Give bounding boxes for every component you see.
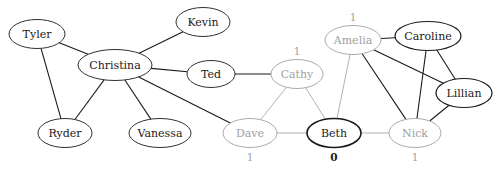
graph-edge-cathy-beth xyxy=(306,88,326,120)
graph-edge-cathy-dave xyxy=(261,87,287,119)
graph-edge-christina-ryder xyxy=(75,80,104,120)
graph-node-cathy[interactable]: Cathy xyxy=(271,60,323,89)
graph-node-christina[interactable]: Christina xyxy=(78,50,152,81)
graph-node-ryder[interactable]: Ryder xyxy=(38,119,92,148)
graph-edge-tyler-christina xyxy=(59,43,88,55)
graph-edge-nick-lillian xyxy=(430,105,449,121)
edges-layer xyxy=(41,32,455,133)
graph-edge-amelia-caroline xyxy=(381,38,395,39)
node-value-beth: 0 xyxy=(330,151,337,163)
graph-edge-amelia-lillian xyxy=(374,50,444,83)
node-label-christina: Christina xyxy=(89,59,141,72)
node-value-amelia: 1 xyxy=(350,11,357,23)
graph-edge-christina-vanessa xyxy=(125,80,151,119)
graph-node-dave[interactable]: Dave xyxy=(223,119,277,148)
node-value-cathy: 1 xyxy=(294,45,301,57)
node-label-cathy: Cathy xyxy=(281,68,314,81)
node-label-kevin: Kevin xyxy=(187,16,218,29)
graph-edge-caroline-nick xyxy=(417,50,426,118)
social-network-graph-figure: TylerKevinChristinaTedRyderVanessaCathyA… xyxy=(0,0,504,169)
node-label-beth: Beth xyxy=(321,127,347,140)
node-label-caroline: Caroline xyxy=(404,30,452,43)
graph-edge-christina-kevin xyxy=(139,32,183,53)
graph-node-vanessa[interactable]: Vanessa xyxy=(129,119,191,148)
graph-node-beth[interactable]: Beth xyxy=(307,119,361,148)
graph-edge-tyler-ryder xyxy=(41,48,61,118)
graph-node-lillian[interactable]: Lillian xyxy=(436,79,492,108)
node-label-ted: Ted xyxy=(201,68,221,81)
graph-edge-amelia-nick xyxy=(362,54,406,120)
node-value-dave: 1 xyxy=(247,151,254,163)
node-label-dave: Dave xyxy=(236,127,264,140)
graph-node-tyler[interactable]: Tyler xyxy=(9,20,65,49)
nodes-layer: TylerKevinChristinaTedRyderVanessaCathyA… xyxy=(9,8,492,148)
graph-node-amelia[interactable]: Amelia xyxy=(325,26,381,55)
node-label-amelia: Amelia xyxy=(333,34,373,47)
graph-node-caroline[interactable]: Caroline xyxy=(395,22,461,51)
node-label-tyler: Tyler xyxy=(23,28,53,41)
graph-node-ted[interactable]: Ted xyxy=(187,61,235,88)
node-label-vanessa: Vanessa xyxy=(137,127,183,140)
graph-edge-amelia-beth xyxy=(337,54,350,118)
graph-node-kevin[interactable]: Kevin xyxy=(176,8,230,37)
graph-edge-christina-ted xyxy=(151,68,187,71)
graph-edge-caroline-lillian xyxy=(437,50,455,79)
graph-node-nick[interactable]: Nick xyxy=(389,119,441,148)
node-label-ryder: Ryder xyxy=(48,127,82,140)
node-label-nick: Nick xyxy=(402,127,428,140)
node-value-nick: 1 xyxy=(412,151,419,163)
node-label-lillian: Lillian xyxy=(446,87,481,100)
graph-canvas: TylerKevinChristinaTedRyderVanessaCathyA… xyxy=(0,0,504,169)
